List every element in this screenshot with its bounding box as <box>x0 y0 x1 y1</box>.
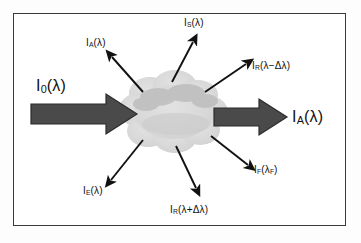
label-absorbed-up-left: IA(λ) <box>86 38 106 49</box>
label-raman-stokes: IR(λ+Δλ) <box>170 205 208 216</box>
label-raman-anti-stokes: IR(λ−Δλ) <box>252 61 290 72</box>
label-scattered-up-argument: (λ) <box>192 17 204 28</box>
arrow-absorbed-up-left <box>112 57 143 92</box>
label-fluorescence: IF(λF) <box>254 165 278 176</box>
label-scattered-up: IS(λ) <box>184 18 204 29</box>
arrow-raman-anti-stokes <box>205 64 246 92</box>
arrow-fluorescence <box>211 136 248 165</box>
label-emitted-down-left: IE(λ) <box>83 186 103 197</box>
transmitted-beam-argument: (λ) <box>304 108 323 125</box>
incident-beam-label: I0(λ) <box>36 78 66 95</box>
incident-beam-arrow <box>31 94 137 134</box>
label-absorbed-up-left-argument: (λ) <box>94 37 106 48</box>
label-raman-stokes-argument: (λ+Δλ) <box>178 204 208 215</box>
label-fluorescence-subscript: F <box>257 168 261 175</box>
label-raman-anti-stokes-argument: (λ−Δλ) <box>260 60 290 71</box>
label-fluorescence-argument-subscript: F <box>270 168 274 175</box>
incident-beam-argument: (λ) <box>47 77 66 94</box>
diagram-figure: I0(λ) IA(λ) IA(λ) IS(λ) IR(λ−Δλ) IF(λF) … <box>0 0 361 243</box>
label-emitted-down-left-argument: (λ) <box>91 185 103 196</box>
transmitted-beam-subscript: A <box>297 114 304 126</box>
arrow-raman-stokes <box>176 146 196 188</box>
arrow-emitted-down-left <box>111 140 143 180</box>
transmitted-beam-label: IA(λ) <box>292 109 323 126</box>
